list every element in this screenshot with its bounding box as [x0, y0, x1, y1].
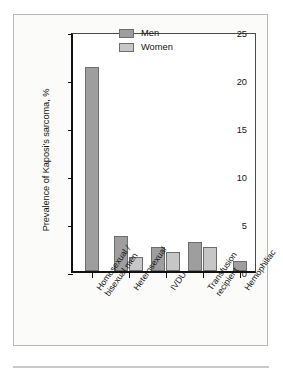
bottom-divider [13, 366, 269, 368]
bar-group [233, 34, 247, 271]
bar-women[interactable] [166, 252, 180, 271]
bars-layer [73, 34, 255, 271]
y-axis-title: Prevalence of Kaposi's sarcoma, % [41, 65, 51, 255]
x-axis-label: Hemophiliac [243, 287, 251, 293]
bar-group [151, 34, 180, 271]
legend: MenWomen [119, 28, 173, 52]
y-axis-tick [68, 274, 73, 275]
bar-men[interactable] [188, 242, 202, 271]
x-axis-label: Homosexual /bisexual men [95, 287, 111, 298]
legend-swatch [119, 29, 134, 38]
bar-group [188, 34, 217, 271]
legend-label: Men [141, 28, 159, 38]
legend-label: Women [141, 42, 173, 52]
legend-swatch [119, 43, 134, 52]
bar-group [85, 34, 99, 271]
x-axis-label: IVDU [169, 287, 177, 293]
legend-item[interactable]: Men [119, 28, 173, 38]
plot-area: 0510152025 [71, 33, 256, 273]
bar-women[interactable] [203, 247, 217, 271]
figure-card: Prevalence of Kaposi's sarcoma, % 051015… [13, 14, 268, 346]
x-axis-label: Heterosexual [132, 287, 140, 293]
bar-group [114, 34, 143, 271]
x-axis-labels: Homosexual /bisexual menHeterosexualIVDU… [71, 277, 261, 347]
x-axis-label: Transfusionrecipient [206, 287, 222, 298]
bar-men[interactable] [85, 67, 99, 271]
legend-item[interactable]: Women [119, 42, 173, 52]
